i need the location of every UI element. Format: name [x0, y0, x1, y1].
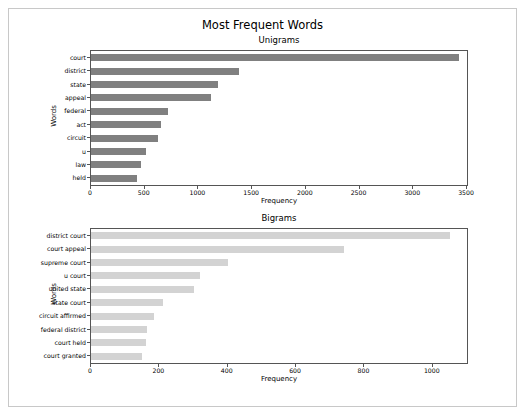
y-axis-label-unigrams: Words [50, 86, 58, 146]
figure-canvas: Most Frequent Words Unigrams courtdistri… [0, 0, 525, 415]
y-tick-mark [87, 151, 90, 152]
y-tick-mark [87, 137, 90, 138]
y-tick-label: law [26, 160, 86, 167]
x-tick-mark [359, 186, 360, 189]
x-tick-mark [197, 186, 198, 189]
bar [91, 313, 154, 320]
x-tick-label: 3000 [404, 189, 420, 196]
y-tick-label: u [26, 147, 86, 154]
y-tick-mark [87, 288, 90, 289]
y-tick-mark [87, 70, 90, 71]
bar [91, 299, 163, 306]
bar [91, 148, 146, 155]
subplot-bigrams: Bigrams district courtcourt appealsuprem… [90, 228, 468, 364]
x-axis-label-unigrams: Frequency [90, 197, 468, 205]
x-tick-label: 3500 [458, 189, 474, 196]
bar [91, 94, 211, 101]
x-tick-label: 0 [88, 367, 92, 374]
y-tick-mark [87, 84, 90, 85]
bar [91, 121, 161, 128]
y-tick-label: court appeal [26, 245, 86, 252]
y-tick-mark [87, 177, 90, 178]
x-tick-label: 800 [358, 367, 370, 374]
subplot-title-bigrams: Bigrams [90, 213, 468, 223]
y-tick-mark [87, 262, 90, 263]
x-tick-mark [144, 186, 145, 189]
x-tick-mark [432, 364, 433, 367]
y-tick-mark [87, 355, 90, 356]
x-tick-mark [227, 364, 228, 367]
x-tick-label: 600 [289, 367, 301, 374]
figure-suptitle: Most Frequent Words [0, 18, 525, 32]
y-tick-mark [87, 342, 90, 343]
y-tick-mark [87, 57, 90, 58]
bar [91, 68, 239, 75]
bar [91, 175, 137, 182]
y-tick-label: court granted [26, 352, 86, 359]
y-tick-mark [87, 110, 90, 111]
x-tick-label: 1000 [424, 367, 440, 374]
x-tick-label: 500 [138, 189, 150, 196]
x-tick-label: 2000 [297, 189, 313, 196]
bar [91, 135, 158, 142]
y-tick-label: court held [26, 338, 86, 345]
x-tick-mark [305, 186, 306, 189]
bar [91, 232, 450, 239]
x-tick-mark [295, 364, 296, 367]
y-tick-mark [87, 302, 90, 303]
y-tick-mark [87, 315, 90, 316]
x-tick-mark [90, 364, 91, 367]
y-tick-label: held [26, 174, 86, 181]
bar [91, 272, 200, 279]
x-tick-label: 0 [88, 189, 92, 196]
x-tick-label: 400 [221, 367, 233, 374]
bar [91, 161, 141, 168]
y-tick-mark [87, 235, 90, 236]
x-tick-mark [251, 186, 252, 189]
bar [91, 246, 344, 253]
subplot-title-unigrams: Unigrams [90, 35, 468, 45]
y-tick-mark [87, 164, 90, 165]
bar [91, 259, 228, 266]
bar [91, 326, 147, 333]
bar [91, 353, 142, 360]
plot-area-unigrams [90, 50, 468, 186]
x-tick-mark [412, 186, 413, 189]
subplot-unigrams: Unigrams courtdistrictstateappealfederal… [90, 50, 468, 186]
y-tick-mark [87, 124, 90, 125]
bar [91, 54, 459, 61]
bar [91, 81, 218, 88]
x-tick-mark [363, 364, 364, 367]
x-tick-label: 2500 [351, 189, 367, 196]
y-tick-label: federal district [26, 325, 86, 332]
y-axis-label-bigrams: Words [50, 264, 58, 324]
y-tick-mark [87, 329, 90, 330]
y-tick-mark [87, 97, 90, 98]
x-axis-label-bigrams: Frequency [90, 375, 468, 383]
x-tick-label: 200 [152, 367, 164, 374]
plot-area-bigrams [90, 228, 468, 364]
y-tick-label: court [26, 53, 86, 60]
bar [91, 339, 146, 346]
x-tick-label: 1000 [190, 189, 206, 196]
bar [91, 286, 194, 293]
y-tick-label: district [26, 67, 86, 74]
bar [91, 108, 168, 115]
x-tick-mark [90, 186, 91, 189]
x-tick-mark [466, 186, 467, 189]
y-tick-mark [87, 275, 90, 276]
x-tick-mark [158, 364, 159, 367]
y-tick-mark [87, 248, 90, 249]
x-tick-label: 1500 [243, 189, 259, 196]
y-tick-label: district court [26, 231, 86, 238]
